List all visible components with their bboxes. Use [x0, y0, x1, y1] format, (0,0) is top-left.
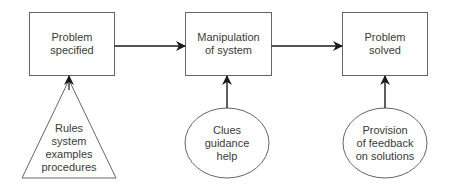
label-manipulation-of-system: Manipulation of system: [185, 31, 272, 57]
label-clues: Clues guidance help: [187, 124, 267, 163]
label-problem-specified: Problem specified: [29, 31, 115, 57]
label-rules: Rules system examples procedures: [29, 122, 109, 174]
label-problem-solved: Problem solved: [342, 31, 428, 57]
label-feedback: Provision of feedback on solutions: [343, 124, 427, 163]
